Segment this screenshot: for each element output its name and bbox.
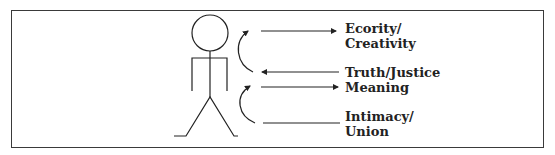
label-ecority-line2: Creativity <box>345 36 416 51</box>
curved-arrow-lower <box>240 86 255 123</box>
label-ecority-creativity: Ecority/ Creativity <box>345 21 416 51</box>
label-truth-line2: Meaning <box>345 80 440 95</box>
stick-figure-legs <box>174 97 238 136</box>
curved-arrows <box>238 31 255 123</box>
label-truth-meaning: Truth/Justice Meaning <box>345 65 440 95</box>
horizontal-arrows <box>261 31 340 123</box>
stick-figure-head <box>192 15 228 51</box>
label-intimacy-union: Intimacy/ Union <box>345 109 414 139</box>
label-truth-line1: Truth/Justice <box>345 65 440 80</box>
label-intimacy-line1: Intimacy/ <box>345 109 414 124</box>
diagram-canvas <box>0 0 555 155</box>
stick-figure <box>174 15 238 136</box>
label-intimacy-line2: Union <box>345 124 414 139</box>
label-ecority-line1: Ecority/ <box>345 21 416 36</box>
curved-arrow-upper <box>238 31 253 72</box>
